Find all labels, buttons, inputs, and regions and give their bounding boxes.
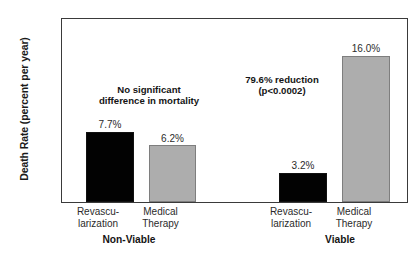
x-label-nonviable-medical-therapy: Medical Therapy <box>125 206 196 229</box>
x-label-line1: Revascu- <box>62 206 134 218</box>
annotation-non-viable-line2: difference in mortality <box>99 95 199 106</box>
x-label-viable-revascularization: Revascu- larization <box>255 206 327 229</box>
annotation-non-viable: No significant difference in mortality <box>79 84 219 107</box>
annotation-non-viable-line1: No significant <box>117 84 180 95</box>
x-label-viable-medical-therapy: Medical Therapy <box>318 206 390 229</box>
annotation-viable-line2: (p<0.0002) <box>258 85 305 96</box>
annotation-viable-line1: 79.6% reduction <box>245 74 319 85</box>
x-label-line1: Medical <box>125 206 196 218</box>
y-axis-title: Death Rate (percent per year) <box>18 9 30 209</box>
bar-value-viable-revascularization: 3.2% <box>279 160 327 171</box>
x-label-line2: Therapy <box>125 218 196 230</box>
x-label-line2: Therapy <box>318 218 390 230</box>
bar-value-nonviable-medical-therapy: 6.2% <box>149 133 196 144</box>
x-label-line1: Revascu- <box>255 206 327 218</box>
x-label-line1: Medical <box>318 206 390 218</box>
bar-value-viable-medical-therapy: 16.0% <box>342 43 390 54</box>
bar-nonviable-revascularization[interactable] <box>86 132 134 202</box>
plot-area: 7.7% 6.2% 3.2% 16.0% No significant diff… <box>61 18 408 203</box>
bar-nonviable-medical-therapy[interactable] <box>149 145 196 202</box>
death-rate-bar-chart: Death Rate (percent per year) 20% 15% 10… <box>0 0 417 256</box>
bar-viable-revascularization[interactable] <box>279 173 327 202</box>
group-label-non-viable: Non-Viable <box>62 234 196 245</box>
bar-value-nonviable-revascularization: 7.7% <box>86 119 134 130</box>
annotation-viable: 79.6% reduction (p<0.0002) <box>222 74 342 97</box>
x-label-nonviable-revascularization: Revascu- larization <box>62 206 134 229</box>
x-label-line2: larization <box>62 218 134 230</box>
bar-viable-medical-therapy[interactable] <box>342 56 390 202</box>
x-label-line2: larization <box>255 218 327 230</box>
group-label-viable: Viable <box>290 234 390 245</box>
